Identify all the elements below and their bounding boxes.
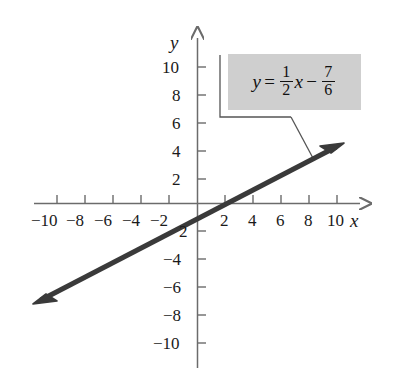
x-tick-label--4: −4 (122, 212, 140, 229)
equation-lhs: y (252, 71, 261, 93)
y-tick-label--2: 2 (179, 223, 188, 240)
x-tick-label-6: 6 (276, 212, 285, 229)
x-tick-label-2: 2 (220, 212, 229, 229)
x-tick-label-10: 10 (327, 212, 344, 229)
equation-minus: − (306, 71, 317, 93)
equation-callout-text: y = 1 2 x − 7 6 (228, 54, 361, 110)
y-tick-label-2: 2 (172, 171, 181, 188)
y-tick-label--10: −10 (153, 335, 180, 352)
y-tick-label--4: −4 (163, 251, 181, 268)
slope-fraction: 1 2 (280, 64, 292, 98)
intercept-fraction: 7 6 (322, 64, 334, 98)
x-tick-label--6: −6 (94, 212, 112, 229)
x-axis-label: x (350, 211, 358, 230)
graph-figure: y x 10 8 6 4 2 2 −4 −6 −8 −10 −10 −8 −6 … (0, 0, 394, 380)
y-tick-label-8: 8 (172, 87, 181, 104)
x-tick-label-8: 8 (304, 212, 313, 229)
intercept-numerator: 7 (322, 64, 334, 80)
x-tick-label--2: −2 (150, 212, 168, 229)
intercept-denominator: 6 (322, 81, 334, 98)
equation-x-variable: x (295, 71, 304, 93)
y-tick-label-6: 6 (172, 115, 181, 132)
x-tick-label--8: −8 (66, 212, 84, 229)
x-tick-label--10: −10 (31, 212, 58, 229)
x-tick-label-4: 4 (248, 212, 257, 229)
slope-numerator: 1 (280, 64, 292, 80)
y-tick-label-10: 10 (162, 59, 179, 76)
y-axis-label: y (170, 33, 178, 52)
equation-equals: = (264, 71, 275, 93)
y-tick-label--6: −6 (163, 279, 181, 296)
slope-denominator: 2 (280, 81, 292, 98)
y-tick-label-4: 4 (172, 143, 181, 160)
y-tick-label--8: −8 (163, 307, 181, 324)
